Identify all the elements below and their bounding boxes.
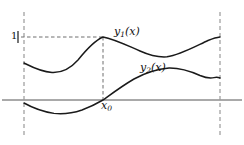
figure-container: y1(x) y2(x) x0 1 (0, 0, 244, 145)
curve-label-y1: y1(x) (114, 26, 140, 39)
curve-label-y2-arg: (x) (151, 61, 166, 74)
curve-y2 (24, 68, 220, 114)
point-label-x0-subscript: 0 (107, 104, 112, 113)
axis-value-label-one: 1 (11, 31, 17, 41)
curve-y1 (24, 37, 220, 73)
point-label-x0: x0 (101, 100, 112, 113)
curve-label-y1-arg: (x) (125, 25, 140, 38)
curve-label-y2: y2(x) (140, 62, 166, 75)
figure-canvas (0, 0, 244, 145)
